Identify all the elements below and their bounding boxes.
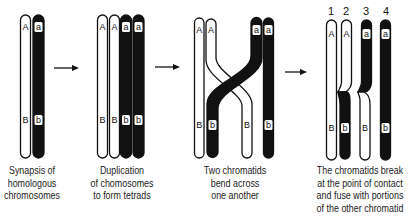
caption-synapsis: Synapsis of homologous chromosomes <box>0 164 66 202</box>
label: A <box>343 29 349 39</box>
arrow-3-head <box>300 69 307 75</box>
arrow-2-head <box>173 64 180 70</box>
label: b <box>210 120 215 130</box>
chromatid-black-a-b-right <box>264 18 274 158</box>
panel-bending <box>195 18 274 159</box>
label: a <box>123 22 128 32</box>
chromatid-numbers: 1 2 3 4 <box>328 5 389 17</box>
chromatid-1-white <box>327 20 337 160</box>
number-1: 1 <box>328 5 334 17</box>
label: b <box>342 123 347 133</box>
label: A <box>196 25 202 35</box>
chromatid-white-A-B <box>21 15 31 158</box>
panel-crossing-over <box>327 20 391 160</box>
chromatid-white-A-B <box>110 15 120 158</box>
label: b <box>266 120 271 130</box>
label: B <box>328 123 334 133</box>
label: a <box>266 25 271 35</box>
chromatid-black-a-b <box>121 15 132 158</box>
label: a <box>383 29 388 39</box>
label: b <box>123 115 128 125</box>
label: a <box>254 25 259 35</box>
panel-duplication <box>98 15 145 158</box>
label: a <box>36 22 41 32</box>
label: b <box>383 123 388 133</box>
label: A <box>208 25 214 35</box>
label: B <box>244 120 250 130</box>
label: B <box>22 115 28 125</box>
label: B <box>99 115 105 125</box>
label: B <box>196 120 202 130</box>
label: A <box>99 22 105 32</box>
label: a <box>136 22 141 32</box>
caption-bending: Two chromatids bend across one another <box>193 164 278 202</box>
label: B <box>111 115 117 125</box>
label: A <box>22 22 28 32</box>
number-2: 2 <box>343 5 349 17</box>
number-3: 3 <box>363 5 369 17</box>
arrow-1-head <box>72 65 79 71</box>
chromatid-white-A-B <box>98 15 108 158</box>
label: a <box>364 29 369 39</box>
label: A <box>111 22 117 32</box>
label: b <box>36 115 41 125</box>
chromatid-white-A-B <box>195 18 205 158</box>
label: B <box>362 123 368 133</box>
caption-duplication: Duplication of chomosomes to form tetrad… <box>80 164 165 202</box>
chromatid-4-black <box>381 20 391 160</box>
chromatid-black-a-b <box>33 15 44 158</box>
panel-synapsis <box>21 15 45 158</box>
label: A <box>328 29 334 39</box>
number-4: 4 <box>383 5 389 17</box>
caption-crossing-over: The chromatids break at the point of con… <box>305 164 408 214</box>
chromatid-black-a-b <box>133 15 144 158</box>
label: b <box>136 115 141 125</box>
